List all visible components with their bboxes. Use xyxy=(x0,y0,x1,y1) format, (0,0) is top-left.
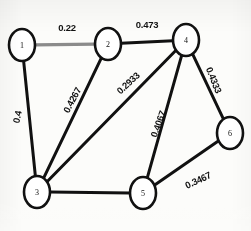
graph-node-6[interactable]: 6 xyxy=(217,117,243,149)
edge-weight-1-2: 0.22 xyxy=(58,22,75,33)
edge-weight-1-3: 0.4 xyxy=(10,109,24,124)
edge-weight-3-4: 0.2933 xyxy=(114,70,141,97)
edge-weight-4-5: 0.4067 xyxy=(148,109,168,138)
node-label-4: 4 xyxy=(184,36,188,45)
graph-node-5[interactable]: 5 xyxy=(130,177,156,209)
graph-diagram-canvas: 123456 0.220.4730.40.42670.29330.40670.4… xyxy=(0,0,251,231)
graph-node-3[interactable]: 3 xyxy=(24,176,50,208)
node-label-6: 6 xyxy=(228,129,232,138)
node-label-1: 1 xyxy=(20,41,24,50)
graph-node-2[interactable]: 2 xyxy=(95,28,121,60)
graph-edge-1-2 xyxy=(35,44,95,45)
edge-weight-4-6: 0.4333 xyxy=(204,65,224,94)
graph-figure: 123456 0.220.4730.40.42670.29330.40670.4… xyxy=(0,0,251,231)
node-label-3: 3 xyxy=(35,188,39,197)
graph-edge-2-4 xyxy=(121,41,173,44)
node-label-2: 2 xyxy=(106,40,110,49)
graph-node-1[interactable]: 1 xyxy=(9,29,35,61)
edge-weight-2-4: 0.473 xyxy=(136,19,158,30)
graph-edge-2-3 xyxy=(44,58,102,178)
edge-weight-5-6: 0.3467 xyxy=(183,169,212,190)
graph-edge-1-3 xyxy=(24,61,36,176)
node-label-5: 5 xyxy=(141,189,145,198)
graph-node-4[interactable]: 4 xyxy=(173,24,199,56)
graph-edge-3-5 xyxy=(50,192,130,193)
edges-layer xyxy=(24,41,224,193)
